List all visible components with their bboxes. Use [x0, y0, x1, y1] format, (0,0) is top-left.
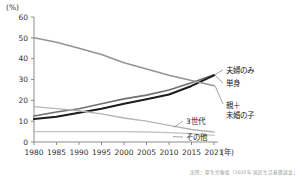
- y-tick-label: 30: [18, 75, 28, 84]
- series-label-leader-0: [215, 70, 223, 75]
- x-tick-label: 2010: [159, 148, 178, 157]
- series-label-leader-2: [215, 86, 223, 104]
- series-label-leader-1: [215, 75, 223, 83]
- chart-canvas: (%)0102030405060198019851990199520002005…: [0, 0, 302, 177]
- y-tick-label: 60: [18, 13, 28, 22]
- y-tick-label: 40: [18, 54, 28, 63]
- source-note: 出所：厚生労働省「2022年 国民生活基礎調査」: [190, 169, 298, 176]
- y-axis-unit-label: (%): [6, 3, 19, 12]
- series-line-1: [34, 75, 214, 119]
- series-label-2-line2: 未婚の子: [226, 110, 255, 120]
- x-tick-label: 1995: [92, 148, 111, 157]
- x-axis-unit-label: (年): [221, 147, 234, 157]
- y-tick-label: 0: [23, 138, 28, 147]
- y-tick-label: 50: [18, 34, 28, 43]
- series-label-3: 3世代: [186, 116, 206, 126]
- series-line-2: [34, 38, 214, 86]
- series-label-2: 親＋: [226, 100, 240, 110]
- line-chart: (%)0102030405060198019851990199520002005…: [0, 0, 302, 177]
- series-label-0: 夫婦のみ: [226, 65, 255, 75]
- series-label-1: 単身: [226, 78, 241, 88]
- x-tick-label: 2005: [137, 148, 156, 157]
- x-tick-label: 1985: [47, 148, 66, 157]
- x-tick-label: 2015: [182, 148, 201, 157]
- x-tick-label: 1990: [69, 148, 88, 157]
- series-label-4: その他: [186, 132, 208, 142]
- x-tick-label: 1980: [24, 148, 43, 157]
- y-tick-label: 10: [18, 117, 28, 126]
- y-tick-label: 20: [18, 96, 28, 105]
- x-tick-label: 2000: [114, 148, 133, 157]
